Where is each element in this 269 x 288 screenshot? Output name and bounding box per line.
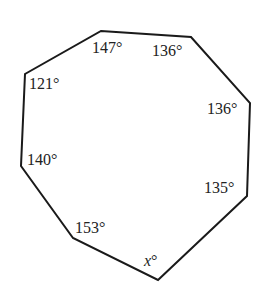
angle-label-top-left: 147° [92, 39, 122, 56]
angle-label-right-upper: 136° [207, 100, 237, 117]
angle-label-left-lower: 140° [27, 151, 57, 168]
angle-label-bottom-left: 153° [75, 219, 105, 236]
angle-label-right-lower: 135° [204, 179, 234, 196]
angle-label-bottom: x° [143, 252, 158, 269]
degree-symbol: ° [151, 252, 157, 269]
angle-label-left-upper: 121° [29, 75, 59, 92]
angle-label-top-right: 136° [152, 42, 182, 59]
svg-text:x°: x° [143, 252, 158, 269]
angle-variable: x [143, 252, 151, 269]
octagon-diagram: 147° 136° 136° 135° x° 153° 140° 121° [0, 0, 269, 288]
